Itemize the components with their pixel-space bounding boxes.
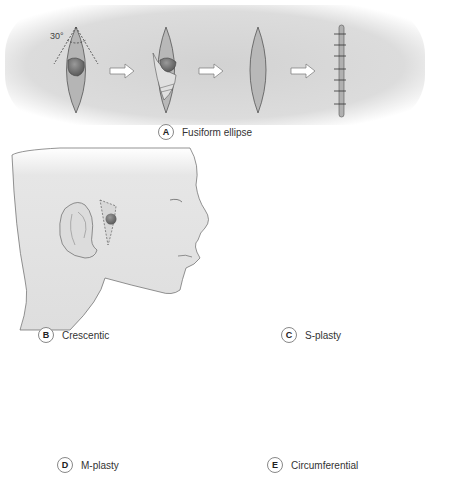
panel-e-caption: E Circumferential — [267, 457, 358, 473]
panel-c-letter: C — [281, 327, 297, 343]
panel-d-letter: D — [57, 457, 73, 473]
panel-c-caption: C S-plasty — [281, 327, 341, 343]
panel-c-text: S-plasty — [305, 330, 341, 341]
panel-b-profile-head — [12, 148, 209, 330]
panel-b-caption: B Crescentic — [38, 327, 109, 343]
panel-b-text: Crescentic — [62, 330, 109, 341]
panel-a-caption: A Fusiform ellipse — [158, 124, 252, 140]
excision-diagram: 30° — [0, 0, 455, 485]
panel-d-text: M-plasty — [81, 460, 119, 471]
panel-e-text: Circumferential — [291, 460, 358, 471]
panel-e-letter: E — [267, 457, 283, 473]
panel-b-letter: B — [38, 327, 54, 343]
panel-a-letter: A — [158, 124, 174, 140]
panel-a-text: Fusiform ellipse — [182, 127, 252, 138]
panel-d-caption: D M-plasty — [57, 457, 119, 473]
angle-label: 30° — [50, 31, 64, 41]
